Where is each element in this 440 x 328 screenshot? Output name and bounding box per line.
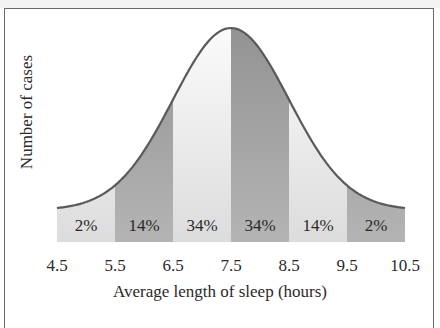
- band-0: [57, 0, 115, 242]
- x-tick-label: 10.5: [390, 256, 420, 275]
- x-tick-label: 4.5: [46, 256, 67, 275]
- band-4: [289, 0, 347, 242]
- band-fills: [57, 0, 405, 242]
- x-axis-label: Average length of sleep (hours): [0, 282, 440, 302]
- x-tick-label: 6.5: [162, 256, 183, 275]
- x-tick-label: 7.5: [220, 256, 241, 275]
- x-tick-label: 5.5: [104, 256, 125, 275]
- band-label: 2%: [365, 216, 388, 235]
- band-3: [231, 0, 289, 242]
- x-tick-label: 8.5: [278, 256, 299, 275]
- band-5: [347, 0, 405, 242]
- x-tick-label: 9.5: [336, 256, 357, 275]
- band-2: [173, 0, 231, 242]
- band-label: 14%: [128, 216, 159, 235]
- y-axis-label: Number of cases: [17, 55, 37, 169]
- band-label: 34%: [244, 216, 275, 235]
- band-label: 14%: [302, 216, 333, 235]
- band-label: 34%: [186, 216, 217, 235]
- band-1: [115, 0, 173, 242]
- band-label: 2%: [75, 216, 98, 235]
- x-tick-labels: 4.55.56.57.58.59.510.5: [46, 256, 420, 275]
